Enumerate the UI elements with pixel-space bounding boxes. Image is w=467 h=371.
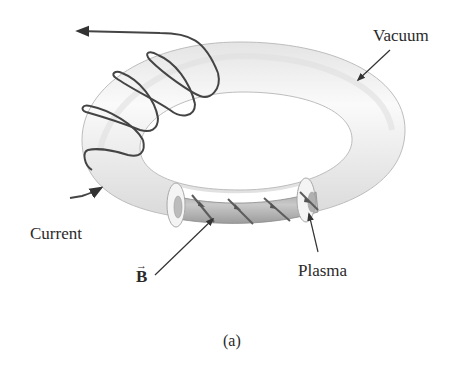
tokamak-torus-diagram: Vacuum Current Plasma → B (a) — [0, 0, 467, 371]
figure-caption: (a) — [223, 333, 241, 349]
vacuum-label: Vacuum — [373, 27, 429, 44]
current-label: Current — [30, 225, 82, 242]
vector-arrow-icon: → — [136, 260, 147, 271]
torus-illustration — [0, 0, 467, 371]
magnetic-field-label: → B — [136, 268, 147, 285]
plasma-label: Plasma — [298, 262, 347, 279]
plasma-pointer — [309, 214, 318, 252]
